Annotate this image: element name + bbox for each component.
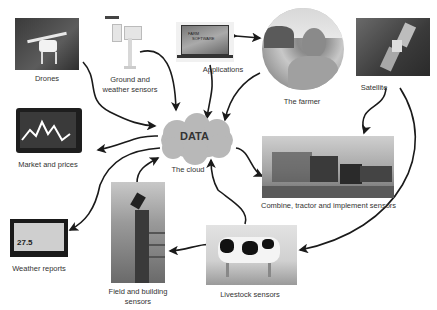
farmer-photo bbox=[262, 8, 344, 90]
cloud-label: The cloud bbox=[158, 165, 218, 175]
farmer-label: The farmer bbox=[272, 97, 332, 107]
combine-label: Combine, tractor and implement sensors bbox=[261, 201, 395, 211]
field-sensors-label-line2: sensors bbox=[125, 297, 151, 306]
combine-image bbox=[262, 136, 394, 198]
weather-display-image: 27.5 bbox=[10, 219, 68, 257]
field-sensors-label-line1: Field and building bbox=[109, 287, 168, 296]
market-label: Market and prices bbox=[8, 160, 88, 170]
field-sensors-label: Field and building sensors bbox=[103, 287, 173, 307]
cloud-title: DATA bbox=[180, 130, 209, 142]
tablet-image bbox=[16, 108, 82, 153]
weather-display-text: 27.5 bbox=[17, 238, 33, 247]
weather-reports-label: Weather reports bbox=[4, 264, 74, 274]
laptop-image: FARM SOFTWARE bbox=[176, 22, 234, 62]
drones-label: Drones bbox=[15, 74, 79, 84]
field-sensor-image bbox=[111, 182, 165, 283]
ground-sensors-label-line1: Ground and bbox=[110, 75, 150, 84]
drone-image bbox=[15, 18, 79, 70]
livestock-label: Livestock sensors bbox=[215, 290, 285, 300]
satellite-image bbox=[356, 18, 430, 76]
ground-sensors-label-line2: weather sensors bbox=[102, 85, 157, 94]
ground-sensors-label: Ground and weather sensors bbox=[100, 75, 160, 95]
applications-label: Applications bbox=[198, 65, 248, 75]
laptop-screen-text-2: SOFTWARE bbox=[192, 36, 215, 41]
cow-image bbox=[206, 225, 297, 285]
satellite-label: Satellite bbox=[357, 83, 391, 93]
weather-station-image bbox=[100, 10, 145, 72]
